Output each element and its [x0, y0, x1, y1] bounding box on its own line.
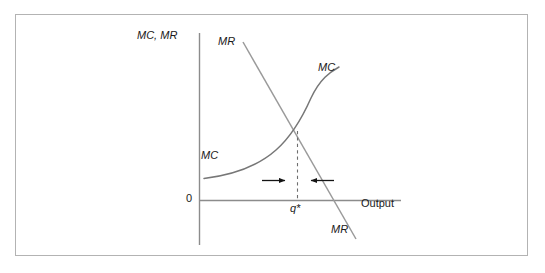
mr-curve-label-top: MR — [218, 36, 235, 47]
q-star-label: q* — [290, 203, 300, 214]
x-axis-label: Output — [361, 198, 394, 209]
mc-curve-label-top: MC — [318, 62, 335, 73]
y-axis-label: MC, MR — [137, 30, 177, 41]
diagram-canvas — [0, 0, 545, 273]
mr-curve-label-bottom: MR — [331, 224, 348, 235]
figure-container: MC, MR MR MC MC 0 q* Output MR — [0, 0, 545, 273]
mc-curve-label-left: MC — [201, 150, 218, 161]
mc-curve — [204, 67, 339, 179]
origin-label: 0 — [186, 193, 192, 204]
